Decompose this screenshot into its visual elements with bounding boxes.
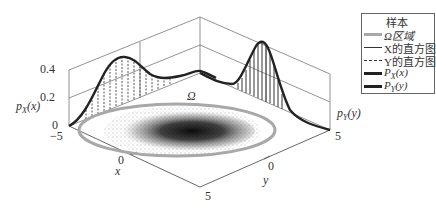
x-axis-label: x (114, 164, 121, 178)
sample-points (104, 106, 260, 156)
omega-label: Ω (187, 89, 196, 103)
py-axis-label: pY(y) (336, 106, 361, 122)
thick-line-swatch-icon (364, 72, 382, 75)
thick-line-swatch-icon (364, 85, 382, 88)
dashed-line-swatch-icon (364, 60, 382, 61)
y-tick-0: 0 (268, 159, 274, 173)
px-axis-label: pX(x) (15, 99, 40, 115)
z-tick-04: 0.4 (40, 62, 55, 76)
y-tick-5: 5 (335, 129, 341, 143)
x-tick-m5: −5 (50, 129, 63, 143)
thin-line-swatch-icon (364, 47, 382, 48)
z-tick-02: 0.2 (40, 90, 55, 104)
legend-item-py: PY(y) (364, 80, 407, 93)
gray-line-swatch-icon (364, 33, 382, 36)
x-tick-5: 5 (205, 189, 211, 203)
legend: 样本 Ω区域 X的直方图 Y的直方图 PX(x) PY(y) (361, 13, 435, 94)
y-axis-label: y (262, 173, 269, 187)
